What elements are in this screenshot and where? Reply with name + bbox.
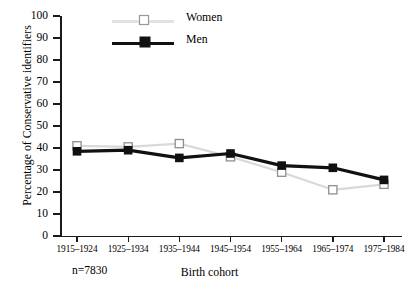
- y-tick-label: 0: [0, 230, 48, 242]
- data-point-women-5: [329, 186, 337, 194]
- x-tick: [332, 236, 333, 242]
- y-tick: [53, 15, 60, 16]
- x-tick: [179, 236, 180, 242]
- y-tick-label: 20: [0, 186, 48, 198]
- y-tick: [53, 235, 60, 236]
- y-tick-label: 10: [0, 208, 48, 220]
- y-tick-label: 30: [0, 164, 48, 176]
- legend-marker-women: [138, 10, 150, 32]
- y-tick: [53, 59, 60, 60]
- data-point-men-3: [226, 149, 235, 158]
- y-tick-label: 80: [0, 54, 48, 66]
- x-tick-label: 1915–1924: [57, 244, 98, 254]
- y-tick-label: 40: [0, 142, 48, 154]
- x-tick-label: 1935–1944: [159, 244, 200, 254]
- conservative-identifiers-line-chart: Percentage of Conservative identifiers 0…: [0, 0, 419, 291]
- x-tick-label: 1945–1954: [210, 244, 251, 254]
- x-tick-label: 1925–1934: [108, 244, 149, 254]
- y-tick: [53, 191, 60, 192]
- data-point-men-4: [277, 161, 286, 170]
- series-women: [73, 140, 388, 194]
- legend-marker-men: [138, 32, 152, 54]
- data-point-women-2: [175, 140, 183, 148]
- legend-label-men: Men: [186, 32, 208, 47]
- x-tick-label: 1955–1964: [261, 244, 302, 254]
- x-axis-title: Birth cohort: [0, 265, 419, 280]
- x-tick: [281, 236, 282, 242]
- y-tick: [53, 169, 60, 170]
- data-point-men-0: [73, 147, 82, 156]
- data-point-men-2: [175, 154, 184, 163]
- x-tick: [383, 236, 384, 242]
- x-tick-label: 1965–1974: [312, 244, 353, 254]
- data-point-men-6: [380, 176, 389, 185]
- y-tick-label: 90: [0, 32, 48, 44]
- x-tick: [230, 236, 231, 242]
- y-tick: [53, 103, 60, 104]
- x-tick: [128, 236, 129, 242]
- sample-size-note: n=7830: [72, 264, 107, 276]
- y-tick-label: 70: [0, 76, 48, 88]
- y-tick: [53, 147, 60, 148]
- y-tick: [53, 125, 60, 126]
- series-layer: [60, 16, 401, 236]
- y-tick: [53, 81, 60, 82]
- x-tick-label: 1975–1984: [364, 244, 405, 254]
- y-tick-label: 100: [0, 10, 48, 22]
- y-tick-label: 60: [0, 98, 48, 110]
- x-tick: [76, 236, 77, 242]
- y-tick: [53, 213, 60, 214]
- plot-area: [60, 16, 401, 236]
- y-tick: [53, 37, 60, 38]
- y-tick-label: 50: [0, 120, 48, 132]
- series-men: [73, 146, 389, 184]
- data-point-men-1: [124, 146, 133, 155]
- legend-label-women: Women: [186, 10, 222, 25]
- data-point-men-5: [329, 164, 338, 173]
